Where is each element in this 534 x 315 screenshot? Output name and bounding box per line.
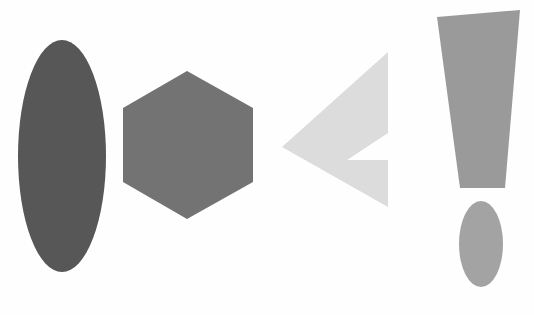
tall-dark-ellipse — [18, 40, 106, 272]
shape-illustration-canvas — [0, 0, 534, 315]
shapes-svg — [0, 0, 534, 315]
exclamation-mark-dot — [459, 201, 503, 287]
